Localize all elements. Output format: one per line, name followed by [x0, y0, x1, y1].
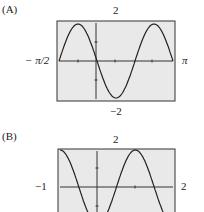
plots-canvas	[0, 0, 204, 212]
plot-a	[57, 21, 175, 101]
plot-b	[58, 149, 175, 212]
